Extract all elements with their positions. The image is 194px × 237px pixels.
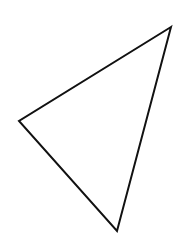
diagram-canvas <box>0 0 194 237</box>
triangle-shape <box>19 27 171 231</box>
